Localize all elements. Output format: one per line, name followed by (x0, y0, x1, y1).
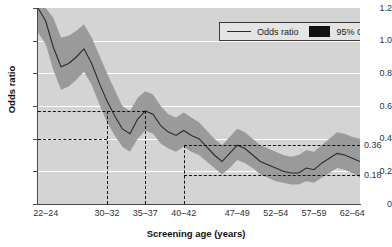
x-tick-label-22-24: 22–24 (21, 208, 71, 218)
y-tick-mark-1.0 (33, 41, 37, 42)
annotation-label-0-36: 0.36 (364, 140, 382, 150)
annotation-line-upper-reference (38, 111, 145, 112)
x-tick-label-40-42: 40–42 (159, 208, 209, 218)
y-tick-mark-0.4 (33, 139, 37, 140)
x-axis-title: Screening age (years) (0, 228, 392, 239)
annotation-label-0-18: 0.18 (364, 170, 382, 180)
annotation-line-lower-reference (38, 139, 107, 140)
legend-line-swatch (227, 31, 251, 32)
annotation-vline-35-37 (145, 111, 146, 204)
y-axis-line (37, 8, 38, 204)
y-tick-label-1.2: 1.2 (362, 4, 392, 13)
annotation-line-upper-result (184, 145, 360, 146)
chart-legend: Odds ratio 95% CI (219, 22, 360, 41)
y-tick-mark-0.6 (33, 106, 37, 107)
y-tick-mark-0 (33, 204, 37, 205)
odds-ratio-chart: Odds ratio 95% CI 00.20.40.60.81.01.2 22… (0, 0, 392, 247)
plot-area: Odds ratio 95% CI (38, 8, 360, 204)
y-tick-mark-0.2 (33, 171, 37, 172)
y-tick-label-0.6: 0.6 (362, 102, 392, 111)
y-axis-title: Odds ratio (6, 50, 17, 130)
legend-ci-swatch (309, 26, 330, 37)
x-axis-line (37, 204, 361, 205)
legend-label-odds-ratio: Odds ratio (257, 27, 299, 37)
annotation-vline-30-32 (107, 111, 108, 204)
annotation-vline-40-42 (184, 145, 185, 204)
x-tick-label-62-64: 62–64 (327, 208, 377, 218)
y-tick-label-0.8: 0.8 (362, 69, 392, 78)
y-tick-mark-0.8 (33, 73, 37, 74)
y-tick-label-1.0: 1.0 (362, 36, 392, 45)
y-tick-mark-1.2 (33, 8, 37, 9)
annotation-line-lower-result (184, 175, 360, 176)
legend-label-ci: 95% CI (337, 27, 360, 37)
